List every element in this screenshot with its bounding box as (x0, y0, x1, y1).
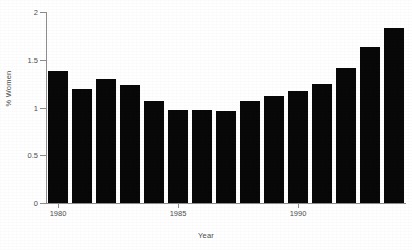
x-axis-title: Year (0, 231, 412, 240)
x-tick-label: 1990 (268, 209, 328, 218)
bar (48, 71, 67, 203)
bar (360, 47, 379, 203)
bar (168, 110, 187, 203)
bar (312, 84, 331, 203)
bar (192, 110, 211, 203)
bar (144, 101, 163, 203)
bar (216, 111, 235, 203)
bar (336, 68, 355, 203)
x-tick-mark (298, 203, 299, 208)
bar-chart-figure: % Women 00.511.52 198019851990 Year (0, 0, 412, 250)
bar (288, 91, 307, 203)
x-tick-mark (58, 203, 59, 208)
x-tick-label: 1980 (28, 209, 88, 218)
bar (120, 85, 139, 203)
bar (384, 28, 403, 203)
bar (96, 79, 115, 203)
bar (240, 101, 259, 203)
x-tick-mark (178, 203, 179, 208)
bar (264, 96, 283, 203)
x-tick-label: 1985 (148, 209, 208, 218)
bar (72, 89, 91, 203)
